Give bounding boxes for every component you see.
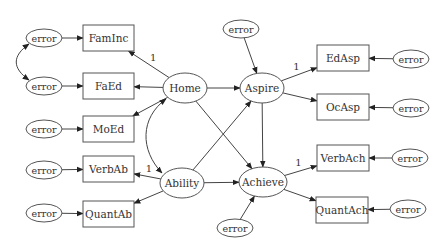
loading-label-faminc: 1 <box>150 52 156 63</box>
path-aspire-to-ocasp <box>283 93 317 101</box>
path-home-to-achieve <box>196 101 252 169</box>
path-achieve-to-quantach <box>284 189 316 200</box>
node-label: VerbAch <box>320 152 366 164</box>
observed-faed: FaEd <box>83 73 134 99</box>
node-label: error <box>32 33 57 44</box>
node-label: Ability <box>164 177 200 189</box>
node-label: Achieve <box>241 176 284 188</box>
node-label: error <box>399 54 424 65</box>
node-label: error <box>399 103 424 114</box>
error-faed: error <box>26 77 62 95</box>
latent-achieve: Achieve <box>239 167 287 197</box>
covariance-home-ability <box>146 99 166 173</box>
node-label: error <box>32 208 57 219</box>
node-label: MoEd <box>93 123 125 135</box>
loading-label-verbab: 1 <box>146 163 152 174</box>
node-label: EdAsp <box>326 52 360 64</box>
latent-ability: Ability <box>160 168 204 198</box>
sem-path-diagram: HomeAspireAbilityAchieveFamIncFaEdMoEdVe… <box>0 0 444 249</box>
node-label: VerbAb <box>88 163 128 175</box>
path-labels-layer: 1111 <box>146 52 302 174</box>
error-achieve: error <box>217 219 253 237</box>
error-verbab: error <box>26 161 62 179</box>
node-label: Home <box>169 82 201 94</box>
node-label: error <box>229 24 254 35</box>
path-ability-to-aspire <box>193 101 251 170</box>
error-ocasp: error <box>393 99 429 117</box>
node-label: FamInc <box>89 32 129 44</box>
path-home-to-moed <box>133 97 168 116</box>
node-label: FaEd <box>95 80 122 92</box>
node-label: error <box>398 153 423 164</box>
observed-ocasp: OcAsp <box>317 94 369 120</box>
error-verbach: error <box>392 149 428 167</box>
node-label: Aspire <box>244 82 279 94</box>
path-ability-to-verbab <box>134 174 161 179</box>
error-quantach: error <box>390 200 426 218</box>
latent-home: Home <box>163 73 207 103</box>
error-arrow-achieve <box>240 196 254 219</box>
path-ability-to-quantab <box>134 191 163 203</box>
observed-quantab: QuantAb <box>83 201 134 227</box>
error-edasp: error <box>393 50 429 68</box>
loading-label-edasp: 1 <box>293 61 299 72</box>
path-aspire-to-achieve <box>262 103 263 167</box>
node-label: error <box>32 124 57 135</box>
node-label: error <box>223 223 248 234</box>
node-label: error <box>32 81 57 92</box>
error-quantab: error <box>26 204 62 222</box>
node-label: QuantAb <box>85 208 132 220</box>
latent-aspire: Aspire <box>240 73 284 103</box>
node-label: error <box>32 165 57 176</box>
observed-quantach: QuantAch <box>316 197 369 223</box>
loading-label-verbach: 1 <box>295 157 301 168</box>
path-home-to-faed <box>134 87 163 88</box>
observed-verbab: VerbAb <box>83 156 134 182</box>
error-faminc: error <box>26 29 62 47</box>
node-label: QuantAch <box>316 204 369 216</box>
observed-verbach: VerbAch <box>317 145 369 171</box>
observed-moed: MoEd <box>83 116 134 142</box>
node-label: error <box>396 204 421 215</box>
observed-edasp: EdAsp <box>317 45 369 71</box>
node-label: OcAsp <box>326 101 360 113</box>
error-aspire: error <box>223 20 259 38</box>
error-moed: error <box>26 120 62 138</box>
covariance-error-faminc-faed <box>16 44 29 80</box>
observed-faminc: FamInc <box>83 25 134 51</box>
error-arrow-aspire <box>244 38 257 74</box>
